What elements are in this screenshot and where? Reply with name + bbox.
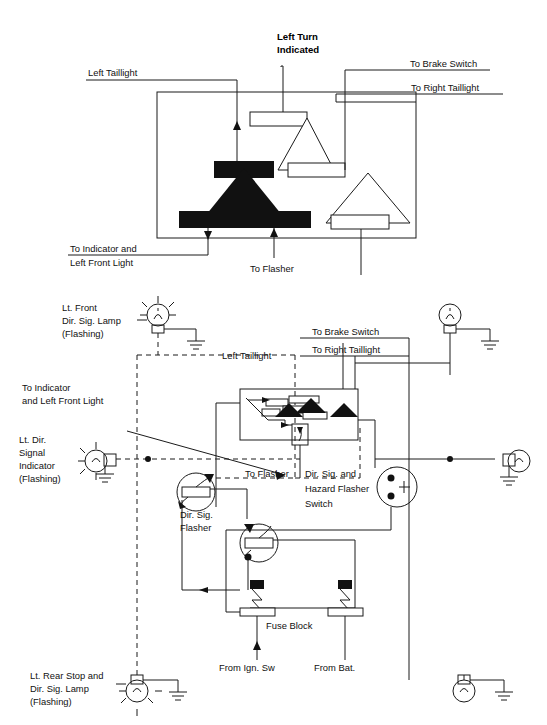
top-arrow-up-left: [233, 121, 241, 130]
fuse-1: [240, 580, 275, 616]
top-hollow-bar-upper: [250, 112, 307, 126]
fuse-block: [240, 580, 363, 616]
junction-dot-indicator-bus: [145, 456, 151, 462]
label-top-to-right-taillight: To Right Taillight: [411, 82, 479, 93]
wire-switch-right-out: [358, 420, 375, 468]
lt-front-dir-sig-lamp: [140, 296, 176, 333]
label-lt-front-lamp-line3: (Flashing): [62, 328, 104, 339]
dir-sig-and-hazard-flasher-switch[interactable]: [240, 389, 358, 445]
hazard-flasher-element: [245, 538, 273, 548]
lt-front-lamp-rays: [140, 296, 176, 315]
top-arrow-up-flasher: [270, 228, 278, 237]
wire-rt-front-lamp-to-ground: [456, 329, 490, 341]
fuse-2-cap: [338, 580, 352, 589]
connector-terminal-top: [388, 475, 395, 482]
wire-lt-front-lamp-to-ground: [164, 329, 196, 341]
label-top-to-flasher: To Flasher: [250, 263, 294, 274]
label-left-turn-indicated-line2: Indicated: [277, 44, 319, 55]
lt-dir-indicator-rays: [78, 442, 96, 480]
label-lt-dir-indicator-line1: Lt. Dir.: [19, 434, 46, 445]
ground-symbol-lt-rear: [169, 692, 187, 700]
wire-hazard-flasher-loop: [250, 540, 355, 608]
label-lt-dir-indicator-line2: Signal: [19, 447, 45, 458]
switch-solid-triangle-3: [330, 403, 358, 417]
fuse-1-base: [240, 608, 275, 616]
label-lt-rear-lamp-line3: (Flashing): [30, 696, 72, 707]
arrow-flasher-feed: [199, 587, 208, 593]
top-solid-bar-lower: [179, 211, 311, 228]
wiring-diagram-canvas: Left Turn Indicated Left Taillight To Br…: [0, 0, 547, 725]
top-hollow-bar-mid: [288, 163, 345, 177]
fuse-2: [328, 580, 363, 616]
hazard-flasher-terminal: [245, 554, 252, 561]
label-to-indicator-sch-line2: and Left Front Light: [22, 395, 104, 406]
label-top-to-indicator-line1: To Indicator and: [70, 243, 137, 254]
label-sch-to-flasher: To Flasher: [245, 468, 289, 479]
dir-sig-flasher-element: [182, 487, 210, 497]
connector-terminal-bottom: [388, 493, 395, 500]
rt-dir-signal-indicator: [500, 450, 530, 485]
label-from-bat: From Bat.: [314, 662, 355, 673]
dir-sig-flasher: [177, 473, 215, 511]
hazard-flasher-arrow-top: [244, 524, 254, 533]
lt-rear-lamp-rays: [119, 691, 162, 716]
switch-lever-tip: [297, 427, 303, 434]
fuse-2-base: [328, 608, 363, 616]
switch-hollow-bar-4: [303, 412, 327, 419]
fuse-1-cap: [250, 580, 264, 589]
label-sch-to-brake-switch: To Brake Switch: [312, 326, 379, 337]
hazard-switch-connector[interactable]: [377, 467, 417, 507]
top-hollow-bar-lower: [331, 215, 389, 229]
arrow-from-ign-sw: [253, 641, 261, 650]
label-top-left-taillight: Left Taillight: [88, 67, 138, 78]
label-dir-sig-hazard-line2: Hazard Flasher: [305, 483, 369, 494]
label-top-to-indicator-line2: Left Front Light: [70, 257, 133, 268]
label-from-ign-sw: From Ign. Sw: [219, 662, 275, 673]
label-to-indicator-sch-line1: To Indicator: [22, 382, 70, 393]
leader-left-taillight: [86, 80, 237, 91]
label-fuse-block: Fuse Block: [266, 620, 313, 631]
ground-symbol-lt-indicator: [96, 474, 114, 482]
wire-connector-to-hazard-flasher: [305, 507, 391, 530]
label-lt-front-lamp-line1: Lt. Front: [62, 302, 97, 313]
label-sch-to-right-taillight: To Right Taillight: [312, 344, 380, 355]
label-dir-sig-flasher-line2: Flasher: [180, 522, 211, 533]
lt-rear-stop-dir-sig-lamp: [119, 675, 162, 716]
label-lt-rear-lamp-line2: Dir. Sig. Lamp: [30, 683, 89, 694]
top-arrow-down-indicator: [204, 231, 212, 240]
ground-symbol-rt-indicator: [500, 477, 518, 485]
top-wire-right-taillight-run: [336, 94, 416, 102]
lt-dir-signal-indicator: [78, 442, 116, 482]
label-lt-dir-indicator-line3: Indicator: [19, 460, 55, 471]
ground-symbol-lt-front: [187, 341, 205, 349]
label-dir-sig-hazard-line1: Dir. Sig. and: [305, 468, 356, 479]
label-lt-rear-lamp-line1: Lt. Rear Stop and: [30, 670, 104, 681]
label-left-turn-indicated-line1: Left Turn: [277, 31, 318, 42]
label-sch-left-taillight: Left Taillight: [222, 350, 272, 361]
label-top-to-brake-switch: To Brake Switch: [410, 58, 477, 69]
label-lt-front-lamp-line2: Dir. Sig. Lamp: [62, 315, 121, 326]
lower-schematic: [78, 296, 530, 716]
ground-symbol-rt-front: [481, 341, 499, 349]
ground-symbol-rt-rear: [495, 692, 513, 700]
wiring-diagram-page: Left Turn Indicated Left Taillight To Br…: [0, 0, 547, 725]
label-lt-dir-indicator-line4: (Flashing): [19, 473, 61, 484]
label-dir-sig-flasher-line1: Dir. Sig.: [180, 509, 213, 520]
label-dir-sig-hazard-line3: Switch: [305, 498, 333, 509]
